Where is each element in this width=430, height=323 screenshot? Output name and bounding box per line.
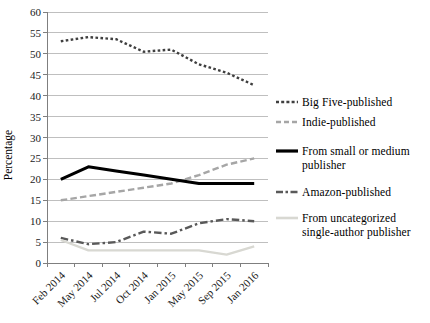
- svg-text:55: 55: [30, 27, 42, 39]
- legend-item-small-medium: From small or medium publisher: [276, 144, 428, 172]
- amazon-line-sample-icon: [276, 185, 298, 199]
- legend-label: Amazon-published: [302, 185, 428, 199]
- series-line: [61, 219, 254, 244]
- legend-item-indie: Indie-published: [276, 115, 428, 129]
- indie-line-sample-icon: [276, 115, 298, 129]
- axes: [43, 12, 268, 267]
- svg-text:5: 5: [36, 236, 42, 248]
- svg-text:60: 60: [30, 6, 42, 18]
- legend-item-uncategorized: From uncategorized single-author publish…: [276, 211, 428, 239]
- x-axis-tick-labels: Feb 2014May 2014Jul 2014Oct 2014Jan 2015…: [30, 269, 261, 310]
- gridlines: [47, 12, 268, 242]
- svg-text:40: 40: [30, 90, 42, 102]
- uncategorized-line-sample-icon: [276, 211, 298, 225]
- svg-text:30: 30: [30, 132, 42, 144]
- svg-text:50: 50: [30, 48, 42, 60]
- series-line: [61, 37, 254, 85]
- svg-text:0: 0: [36, 257, 42, 269]
- legend-item-big-five: Big Five-published: [276, 95, 428, 109]
- svg-text:15: 15: [30, 194, 42, 206]
- legend-item-amazon: Amazon-published: [276, 185, 428, 199]
- svg-text:20: 20: [30, 173, 42, 185]
- big-five-line-sample-icon: [276, 95, 298, 109]
- svg-text:Jan 2016: Jan 2016: [224, 269, 261, 306]
- series-lines: [61, 37, 254, 255]
- svg-text:25: 25: [30, 152, 42, 164]
- y-axis-tick-labels: 051015202530354045505560: [30, 6, 42, 269]
- svg-text:10: 10: [30, 215, 42, 227]
- svg-text:35: 35: [30, 111, 42, 123]
- legend-label: Big Five-published: [302, 95, 428, 109]
- legend-label: Indie-published: [302, 115, 428, 129]
- small-medium-line-sample-icon: [276, 144, 298, 158]
- svg-text:45: 45: [30, 69, 42, 81]
- line-chart-figure: 051015202530354045505560 Feb 2014May 201…: [0, 0, 430, 323]
- legend-label: From small or medium publisher: [302, 144, 428, 172]
- legend-label: From uncategorized single-author publish…: [302, 211, 428, 239]
- y-axis-title: Percentage: [2, 130, 15, 180]
- series-line: [61, 167, 254, 184]
